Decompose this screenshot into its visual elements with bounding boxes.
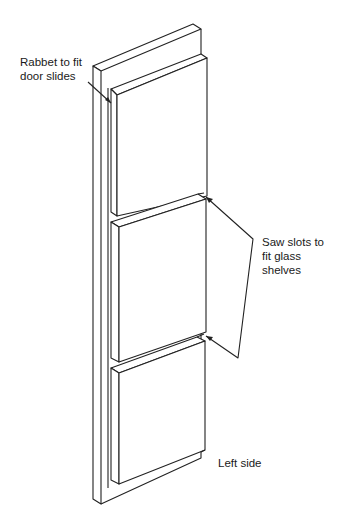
label-rabbet: Rabbet to fit door slides [20, 55, 82, 83]
label-saw-slots: Saw slots to fit glass shelves [262, 235, 324, 277]
label-left-side: Left side [218, 456, 261, 470]
panel-top [111, 54, 207, 216]
